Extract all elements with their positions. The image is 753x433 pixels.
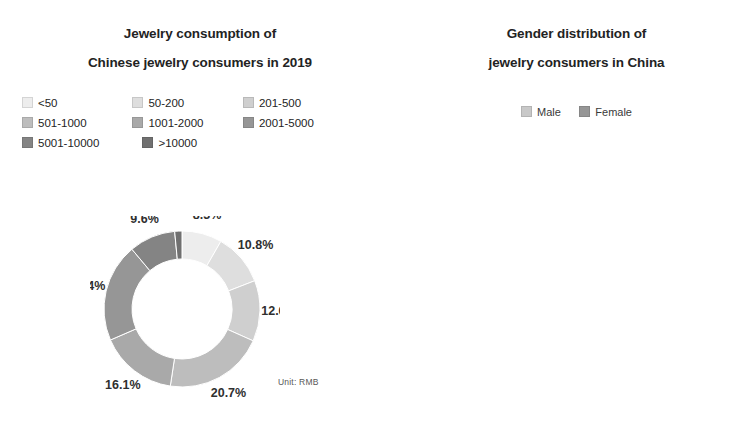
left-chart-title-line1: Jewelry consumption of (0, 27, 400, 41)
legend-item-label: 50-200 (148, 97, 184, 109)
legend-item-gt10000[interactable]: >10000 (142, 136, 248, 151)
legend-row: 5001-10000 >10000 (22, 136, 352, 156)
legend-item-1001-2000[interactable]: 1001-2000 (132, 116, 238, 131)
legend-item-2001-5000[interactable]: 2001-5000 (243, 116, 349, 131)
left-donut-svg: 8.3%10.8%12.6%20.7%16.1%20.4%9.6%1.5% (90, 216, 280, 406)
legend-item-female[interactable]: Female (579, 105, 632, 120)
donut-slice[interactable] (170, 329, 253, 387)
jewelry-consumption-chart-panel: Jewelry consumption of Chinese jewelry c… (0, 0, 400, 433)
legend-swatch-icon (142, 137, 153, 148)
donut-slice-label: 10.8% (238, 238, 273, 252)
donut-slice-label: 12.6% (261, 304, 280, 318)
legend-swatch-icon (579, 106, 590, 117)
legend-item-label: 2001-5000 (259, 117, 314, 129)
legend-swatch-icon (243, 97, 254, 108)
legend-item-label: <50 (38, 97, 58, 109)
legend-item-50-200[interactable]: 50-200 (132, 96, 238, 111)
donut-slice-label: 8.3% (193, 216, 222, 222)
legend-item-5001-10000[interactable]: 5001-10000 (22, 136, 138, 151)
donut-slice-label: 16.1% (105, 378, 140, 392)
legend-row: 501-1000 1001-2000 2001-5000 (22, 116, 352, 136)
legend-item-501-1000[interactable]: 501-1000 (22, 116, 128, 131)
donut-slice-label: 20.7% (211, 386, 246, 400)
left-donut-chart[interactable]: 8.3%10.8%12.6%20.7%16.1%20.4%9.6%1.5% (90, 216, 280, 406)
donut-slice-label: 1.5% (163, 216, 192, 218)
legend-item-label: Female (595, 106, 632, 118)
legend-swatch-icon (22, 117, 33, 128)
legend-item-label: Male (537, 106, 561, 118)
donut-slice-label: 20.4% (90, 279, 105, 293)
legend-swatch-icon (132, 117, 143, 128)
legend-swatch-icon (521, 106, 532, 117)
legend-item-male[interactable]: Male (521, 105, 561, 120)
gender-distribution-chart-panel: Gender distribution of jewelry consumers… (400, 0, 753, 433)
legend-swatch-icon (132, 97, 143, 108)
legend-item-label: 1001-2000 (148, 117, 203, 129)
legend-item-201-500[interactable]: 201-500 (243, 96, 349, 111)
legend-swatch-icon (22, 97, 33, 108)
unit-note: Unit: RMB (278, 377, 319, 387)
legend-swatch-icon (243, 117, 254, 128)
right-chart-title-line2: jewelry consumers in China (400, 56, 753, 70)
legend-item-label: 201-500 (259, 97, 301, 109)
left-chart-legend: <50 50-200 201-500 501-1000 1001-2000 20… (22, 96, 352, 156)
legend-swatch-icon (22, 137, 33, 148)
legend-item-lt50[interactable]: <50 (22, 96, 128, 111)
legend-item-label: >10000 (158, 137, 197, 149)
right-chart-legend: Male Female (400, 105, 753, 123)
legend-row: <50 50-200 201-500 (22, 96, 352, 116)
donut-slice-label: 9.6% (130, 216, 159, 226)
legend-item-label: 501-1000 (38, 117, 87, 129)
right-chart-title-line1: Gender distribution of (400, 27, 753, 41)
left-chart-title-line2: Chinese jewelry consumers in 2019 (0, 56, 400, 70)
legend-item-label: 5001-10000 (38, 137, 99, 149)
